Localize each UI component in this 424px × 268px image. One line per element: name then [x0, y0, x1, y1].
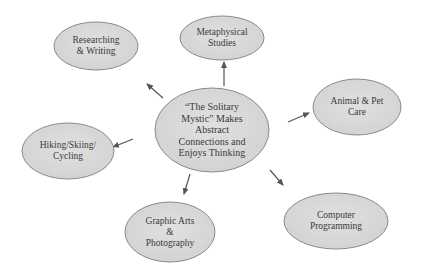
arrow-to-researching-icon: [147, 84, 163, 98]
center-node-ellipse: [155, 88, 269, 172]
arrow-to-animal-icon: [288, 113, 309, 122]
arrow-to-computer-icon: [270, 170, 283, 185]
mind-map-diagram: “The Solitary Mystic” Makes Abstract Con…: [0, 0, 424, 268]
node-ellipse-hiking: [22, 123, 114, 179]
node-ellipse-animal: [313, 79, 401, 135]
node-ellipse-computer: [284, 193, 388, 249]
arrow-to-graphic-icon: [184, 174, 190, 194]
node-ellipse-researching: [54, 22, 138, 70]
node-ellipse-metaphysical: [180, 16, 264, 60]
node-ellipse-graphic: [125, 202, 215, 262]
arrow-to-hiking-icon: [113, 139, 133, 147]
ellipses-layer: [22, 16, 401, 262]
diagram-canvas: [0, 0, 424, 268]
